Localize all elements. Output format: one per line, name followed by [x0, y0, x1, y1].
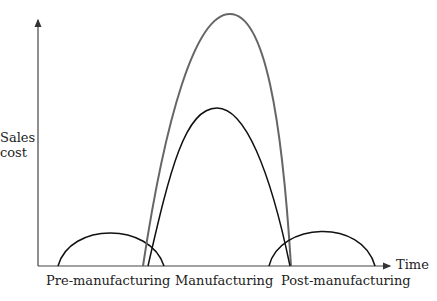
x-axis-label: Time — [396, 257, 429, 272]
phase-label-pre-manufacturing: Pre-manufacturing — [46, 273, 170, 288]
diagram-canvas — [0, 0, 437, 301]
y-axis-label: Sales cost — [0, 130, 35, 160]
manufacturing-outer-curve — [143, 14, 291, 266]
post-manufacturing-curve — [269, 231, 375, 266]
y-axis-label-line1: Sales — [0, 130, 35, 145]
y-axis-label-line2: cost — [0, 145, 35, 160]
phase-label-manufacturing: Manufacturing — [175, 273, 273, 288]
phase-label-post-manufacturing: Post-manufacturing — [281, 273, 411, 288]
